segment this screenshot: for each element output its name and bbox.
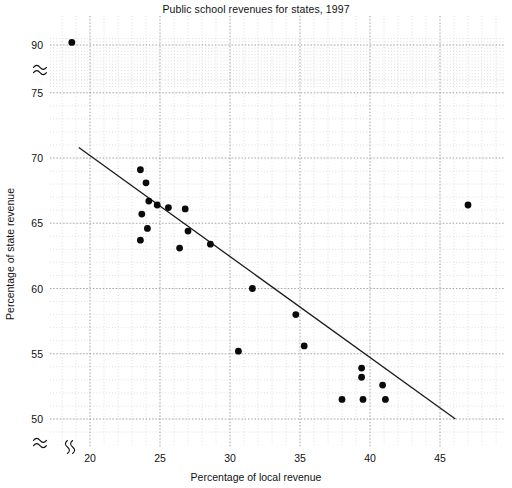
x-axis-label: Percentage of local revenue <box>191 471 322 483</box>
data-point <box>138 211 145 218</box>
regression-line <box>79 148 456 419</box>
data-points <box>68 39 471 403</box>
plot-canvas: 20253035404550556065707590 Percentage of… <box>0 0 512 488</box>
x-axis-break-icon <box>65 441 74 454</box>
data-point <box>339 396 346 403</box>
x-tick-label: 45 <box>434 452 446 464</box>
y-tick-label: 65 <box>31 217 43 229</box>
data-point <box>144 225 151 232</box>
data-point <box>154 202 161 209</box>
x-tick-label: 30 <box>224 452 236 464</box>
data-point <box>137 166 144 173</box>
y-tick-label: 70 <box>31 152 43 164</box>
data-point <box>137 237 144 244</box>
y-tick-label: 55 <box>31 348 43 360</box>
data-point <box>379 382 386 389</box>
data-point <box>165 204 172 211</box>
minor-gridlines <box>50 16 505 447</box>
scatter-chart: Public school revenues for states, 1997 … <box>0 0 512 488</box>
data-point <box>68 39 75 46</box>
data-point <box>358 374 365 381</box>
data-point <box>143 179 150 186</box>
y-axis-break-icon <box>34 65 47 74</box>
y-axis-label: Percentage of state revenue <box>4 188 16 320</box>
y-tick-label: 75 <box>31 87 43 99</box>
x-tick-label: 35 <box>294 452 306 464</box>
data-point <box>382 396 389 403</box>
data-point <box>465 202 472 209</box>
y-tick-label: 60 <box>31 283 43 295</box>
x-tick-label: 25 <box>154 452 166 464</box>
x-tick-label: 20 <box>84 452 96 464</box>
data-point <box>182 205 189 212</box>
data-point <box>249 285 256 292</box>
data-point <box>176 245 183 252</box>
data-point <box>301 343 308 350</box>
data-point <box>235 348 242 355</box>
data-point <box>360 396 367 403</box>
data-point <box>292 311 299 318</box>
y-tick-label: 50 <box>31 413 43 425</box>
y-tick-label: 90 <box>31 39 43 51</box>
data-point <box>207 241 214 248</box>
data-point <box>358 365 365 372</box>
data-point <box>185 228 192 235</box>
y-axis-break-icon <box>34 438 47 447</box>
x-tick-label: 40 <box>364 452 376 464</box>
data-point <box>145 198 152 205</box>
axis-break-marks <box>34 65 75 453</box>
